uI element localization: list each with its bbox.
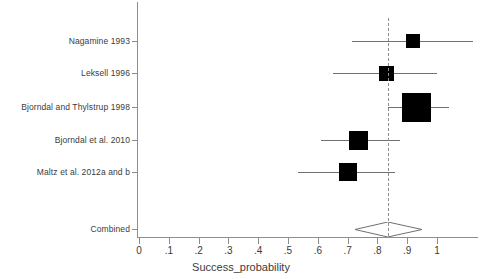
study-marker-box <box>406 34 420 48</box>
x-axis-line <box>137 237 478 238</box>
study-label: Bjorndal and Thylstrup 1998 <box>0 102 130 112</box>
y-axis-tick <box>132 41 138 42</box>
y-axis-tick <box>132 140 138 141</box>
study-marker-box <box>349 131 368 150</box>
y-axis-tick <box>132 73 138 74</box>
forest-plot: Nagamine 1993Leksell 1996Bjorndal and Th… <box>0 0 482 279</box>
x-axis-tick <box>377 238 378 244</box>
study-marker-box <box>339 163 357 181</box>
y-axis-tick <box>132 229 138 230</box>
study-marker-box <box>379 66 394 81</box>
y-axis-line <box>137 2 138 237</box>
x-axis-tick <box>199 238 200 244</box>
study-label: Maltz et al. 2012a and b <box>0 167 130 177</box>
x-axis-tick <box>258 238 259 244</box>
x-axis-tick <box>139 238 140 244</box>
x-axis-title: Success_probability <box>0 261 482 274</box>
x-axis-tick <box>228 238 229 244</box>
x-axis-tick <box>169 238 170 244</box>
study-label: Bjorndal et al. 2010 <box>0 135 130 145</box>
study-label: Nagamine 1993 <box>0 36 130 46</box>
study-label: Leksell 1996 <box>0 68 130 78</box>
y-axis-tick <box>132 172 138 173</box>
reference-line <box>388 18 389 236</box>
x-axis-tick <box>437 238 438 244</box>
y-axis-tick <box>132 107 138 108</box>
x-axis-tick <box>318 238 319 244</box>
x-tick-label: 1 <box>417 245 457 257</box>
x-axis-tick <box>407 238 408 244</box>
combined-label: Combined <box>0 224 130 234</box>
study-marker-box <box>402 93 431 122</box>
x-axis-tick <box>348 238 349 244</box>
combined-diamond <box>355 222 422 237</box>
x-axis-tick <box>288 238 289 244</box>
